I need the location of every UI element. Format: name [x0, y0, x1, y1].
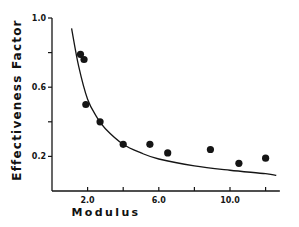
x-tick-label: 6.0 [152, 196, 167, 205]
y-tick-label: 0.6 [32, 83, 47, 92]
y-tick-label: 0.2 [32, 152, 46, 161]
x-tick-label: 2.0 [81, 196, 96, 205]
x-tick-label: 10.0 [220, 196, 240, 205]
y-tick-label: 1.0 [32, 14, 47, 23]
data-point [82, 101, 89, 108]
data-point [207, 146, 214, 153]
data-point [146, 141, 153, 148]
data-point [262, 155, 269, 162]
data-point [164, 149, 171, 156]
data-point [235, 160, 242, 167]
theory-curve-path [72, 28, 277, 175]
data-point [80, 56, 87, 63]
chart-plot: 0.20.61.02.06.010.0 [0, 0, 299, 227]
data-points [77, 51, 269, 167]
theory-curve [72, 28, 277, 175]
data-point [120, 141, 127, 148]
data-point [96, 118, 103, 125]
axes: 0.20.61.02.06.010.0 [32, 14, 280, 205]
